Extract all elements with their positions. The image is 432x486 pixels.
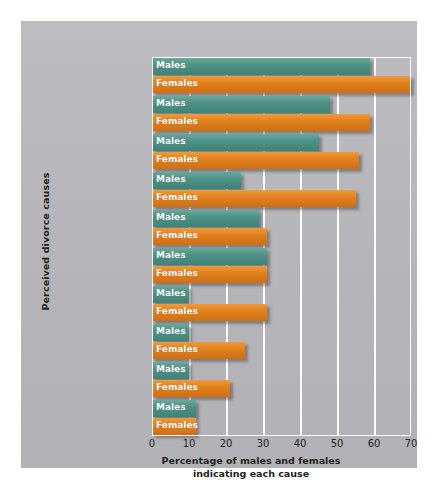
bar-group: Financial problemsMalesFemales	[152, 210, 411, 245]
bar-slot: Males	[152, 362, 411, 379]
bar-group: Alcohol abuse by spouseMalesFemales	[152, 286, 411, 321]
bar-series-label: Males	[156, 98, 186, 108]
bar-series-label: Females	[156, 192, 198, 202]
bar-series-label: Females	[156, 306, 198, 316]
bar-males[interactable]: Males	[152, 210, 259, 227]
bar-females[interactable]: Females	[152, 380, 230, 397]
bar-group: In-lawsMalesFemales	[152, 400, 411, 435]
bar-group: Basic unhappinessMalesFemales	[152, 96, 411, 131]
bar-slot: Females	[152, 266, 411, 283]
bar-series-label: Males	[156, 326, 186, 336]
bar-slot: Males	[152, 324, 411, 341]
bar-slot: Males	[152, 248, 411, 265]
bar-series-label: Males	[156, 364, 186, 374]
bar-slot: Females	[152, 304, 411, 321]
bar-females[interactable]: Females	[152, 152, 359, 169]
bar-males[interactable]: Males	[152, 248, 267, 265]
bar-slot: Females	[152, 76, 411, 93]
bar-slot: Females	[152, 152, 411, 169]
bar-slot: Males	[152, 58, 411, 75]
x-tick-label-0: 0	[149, 438, 155, 449]
bar-males[interactable]: Males	[152, 58, 370, 75]
bar-group: Physical abuseMalesFemales	[152, 362, 411, 397]
bar-males[interactable]: Males	[152, 286, 189, 303]
bar-slot: Males	[152, 134, 411, 151]
bar-males[interactable]: Males	[152, 324, 189, 341]
bar-series-label: Males	[156, 250, 186, 260]
bar-slot: Males	[152, 400, 411, 417]
bar-males[interactable]: Males	[152, 134, 319, 151]
bar-slot: Males	[152, 172, 411, 189]
x-tick-label-60: 60	[368, 438, 381, 449]
bar-series-label: Females	[156, 154, 198, 164]
bar-slot: Males	[152, 210, 411, 227]
x-tick-label-20: 20	[220, 438, 233, 449]
bar-series-label: Females	[156, 268, 198, 278]
bar-females[interactable]: Females	[152, 266, 267, 283]
bar-slot: Females	[152, 380, 411, 397]
bar-females[interactable]: Females	[152, 304, 267, 321]
bar-series-label: Males	[156, 212, 186, 222]
plot-area: Communication problemsMalesFemalesBasic …	[152, 57, 411, 436]
bar-males[interactable]: Males	[152, 400, 196, 417]
x-tick-label-70: 70	[405, 438, 418, 449]
bar-series-label: Males	[156, 402, 186, 412]
bar-series-label: Females	[156, 116, 198, 126]
x-axis-title-line1: Percentage of males and females	[81, 455, 421, 468]
x-axis-title: Percentage of males and females indicati…	[81, 455, 421, 480]
bar-slot: Males	[152, 96, 411, 113]
bar-group: Communication problemsMalesFemales	[152, 58, 411, 93]
bar-slot: Females	[152, 190, 411, 207]
bar-slot: Females	[152, 114, 411, 131]
figure: Perceived divorce causes Communication p…	[0, 0, 432, 486]
x-tick-label-50: 50	[331, 438, 344, 449]
bar-series-label: Females	[156, 382, 198, 392]
bar-males[interactable]: Males	[152, 362, 189, 379]
bar-series-label: Males	[156, 174, 186, 184]
bar-females[interactable]: Females	[152, 342, 245, 359]
bar-males[interactable]: Males	[152, 172, 241, 189]
bar-females[interactable]: Females	[152, 114, 370, 131]
bar-series-label: Females	[156, 344, 198, 354]
bar-series-label: Males	[156, 60, 186, 70]
bar-slot: Females	[152, 228, 411, 245]
bar-slot: Males	[152, 286, 411, 303]
bar-group: IncompatibilityMalesFemales	[152, 134, 411, 169]
bar-slot: Females	[152, 342, 411, 359]
bar-series-label: Females	[156, 420, 198, 430]
x-tick-label-30: 30	[257, 438, 270, 449]
bar-slot: Females	[152, 418, 411, 435]
chart-card: Perceived divorce causes Communication p…	[21, 21, 417, 468]
bar-series-label: Females	[156, 78, 198, 88]
y-axis-title: Perceived divorce causes	[40, 142, 51, 342]
bar-females[interactable]: Females	[152, 418, 196, 435]
bar-group: Sexual problemsMalesFemales	[152, 248, 411, 283]
x-axis-title-line2: indicating each cause	[81, 468, 421, 481]
bar-series-label: Males	[156, 288, 186, 298]
bar-males[interactable]: Males	[152, 96, 330, 113]
bar-females[interactable]: Females	[152, 190, 356, 207]
x-tick-label-10: 10	[183, 438, 196, 449]
x-tick-label-40: 40	[294, 438, 307, 449]
bar-females[interactable]: Females	[152, 76, 411, 93]
bar-group: Infidelity by spouseMalesFemales	[152, 324, 411, 359]
x-axis-ticks: 010203040506070	[152, 438, 411, 452]
bar-group: Emotional abuseMalesFemales	[152, 172, 411, 207]
bar-series-label: Females	[156, 230, 198, 240]
bar-females[interactable]: Females	[152, 228, 267, 245]
bar-series-label: Males	[156, 136, 186, 146]
